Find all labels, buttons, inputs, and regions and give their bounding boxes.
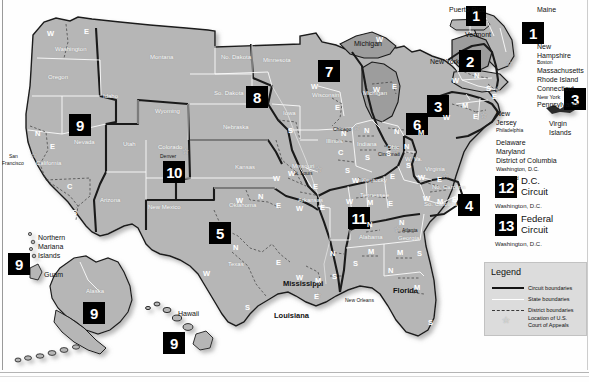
district-letter-oklahoma-w: W: [236, 196, 243, 205]
circuit-card-dc[interactable]: 12 D.C. Circuit: [495, 176, 548, 198]
callout-label-new-hampshire-l2: Hampshire: [537, 52, 571, 59]
circuit-badge-8-dakotas[interactable]: 8: [246, 86, 268, 108]
district-letter-new-york-w: W: [452, 76, 459, 85]
city-label-san-francisco-l1: San: [9, 153, 18, 159]
circuit-badge-1-new-england[interactable]: 1: [522, 22, 544, 44]
legend-row-court-location: ☆ Location of U.S. Court of Appeals: [491, 315, 569, 331]
callout-label-new-york: New York: [537, 94, 560, 100]
district-letter-louisiana-w: W: [296, 273, 303, 282]
district-boundary-key-icon: [491, 305, 525, 315]
district-letter-ohio-n: N: [394, 127, 399, 136]
callout-label-new-york-west: New York: [430, 58, 460, 65]
legend-label-court-location: Location of U.S. Court of Appeals: [528, 315, 569, 328]
district-letter-indiana-s: S: [365, 153, 370, 162]
district-letter-texas-s: S: [245, 303, 250, 312]
legend-label-state: State boundaries: [528, 296, 570, 303]
court-location-star-cincinnati: ☆: [392, 148, 399, 156]
district-letter-california-c: C: [67, 182, 72, 191]
district-letter-louisiana-m: M: [315, 276, 321, 285]
district-letter-florida-n: N: [388, 266, 393, 275]
state-label-washington: Washington: [55, 46, 86, 52]
state-label-alabama: Alabama: [359, 234, 383, 240]
callout-label-pennsylvania: Pennsylvania: [537, 101, 579, 108]
callout-label-northern-mariana-l2: Mariana: [38, 243, 63, 250]
callout-label-new-hampshire-l1: New: [537, 43, 551, 50]
circuit-card-federal-title-l2: Circuit: [521, 225, 553, 236]
legend-label-district: District boundaries: [528, 307, 574, 314]
callout-label-delaware: Delaware: [496, 139, 526, 146]
circuit-badge-12-dc[interactable]: 12: [495, 176, 517, 198]
district-letter-illinois-s: S: [345, 166, 350, 175]
circuit-badge-4-virginia[interactable]: 4: [458, 194, 480, 216]
district-letter-virginia-w: W: [418, 173, 425, 182]
circuit-badge-2-new-york[interactable]: 2: [459, 50, 481, 72]
state-label-montana: Montana: [150, 54, 173, 60]
circuit-badge-10-colorado[interactable]: 10: [163, 161, 185, 183]
legend-row-district: District boundaries: [491, 305, 574, 315]
legend-label-circuit: Circuit boundaries: [528, 285, 572, 292]
state-label-north-dakota: No. Dakota: [221, 54, 251, 60]
circuit-badge-5-texas[interactable]: 5: [209, 222, 231, 244]
district-letter-kansas-w: W: [273, 174, 280, 183]
district-letter-illinois-c: C: [338, 148, 343, 157]
state-label-kentucky: Kentucky: [362, 177, 387, 183]
state-label-alaska: Alaska: [86, 288, 104, 294]
state-label-iowa: Iowa: [283, 110, 296, 116]
district-letter-texas-w: W: [203, 269, 210, 278]
circuit-badge-9-alaska[interactable]: 9: [83, 302, 105, 324]
state-label-california: California: [36, 160, 61, 166]
circuit-card-federal[interactable]: 13 Federal Circuit: [495, 214, 553, 236]
district-letter-new-york-n: N: [474, 71, 479, 80]
district-letter-tennessee-w: W: [346, 197, 353, 206]
district-letter-mississippi-s: S: [332, 272, 337, 281]
state-label-colorado: Colorado: [158, 144, 182, 150]
legend-row-circuit: Circuit boundaries: [491, 283, 572, 293]
district-letter-ohio-s: S: [386, 149, 391, 158]
district-letter-texas-n: N: [233, 243, 238, 252]
district-letter-missouri-e: E: [313, 182, 318, 191]
district-letter-washington-e: E: [84, 27, 89, 36]
state-label-wisconsin: Wisconsin: [312, 92, 339, 98]
district-letter-arkansas-e: E: [320, 203, 325, 212]
district-letter-california-n: N: [35, 129, 40, 138]
legend-title: Legend: [491, 267, 521, 277]
district-letter-georgia-m: M: [397, 248, 403, 257]
district-letter-georgia-n: N: [399, 218, 404, 227]
district-letter-missouri-w: W: [288, 169, 295, 178]
circuit-card-dc-city: Washington, D.C.: [495, 203, 542, 209]
callout-label-maine: Maine: [537, 6, 556, 13]
circuit-badge-13-federal[interactable]: 13: [495, 214, 517, 236]
callout-label-hawaii: Hawaii: [178, 310, 199, 317]
circuit-badge-7-illinois[interactable]: 7: [318, 60, 340, 82]
state-label-texas: Texas: [228, 261, 244, 267]
callout-label-washington-dc: Washington, D.C.: [496, 166, 539, 172]
legend-panel: Legend Circuit boundaries State boundari…: [484, 262, 587, 336]
callout-label-district-of-columbia: District of Columbia: [496, 157, 557, 164]
callout-label-virgin-islands-l2: Islands: [549, 129, 571, 136]
circuit-badge-9-hawaii[interactable]: 9: [163, 332, 185, 354]
district-letter-pennsylvania-m: M: [462, 101, 468, 110]
district-letter-indiana-n: N: [364, 126, 369, 135]
callout-label-louisiana: Louisiana: [274, 311, 309, 320]
circuit-badge-9-west[interactable]: 9: [69, 114, 91, 136]
district-letter-north-carolina-w: W: [423, 194, 430, 203]
callout-label-maryland: Maryland: [496, 148, 525, 155]
legend-label-court-location-l1: Location of U.S.: [528, 315, 569, 322]
district-letter-new-york-e: E: [492, 92, 497, 101]
court-location-star-chicago: ☆: [353, 124, 360, 132]
district-letter-alabama-s: S: [353, 259, 358, 268]
court-location-star-atlanta: ☆: [394, 226, 401, 234]
court-location-star-philadelphia: ☆: [480, 112, 487, 120]
city-label-san-francisco-l2: Francisco: [2, 160, 24, 166]
circuit-badge-6-ohio[interactable]: 6: [406, 113, 428, 135]
district-letter-north-carolina-e: E: [452, 195, 457, 204]
state-label-missouri: Missouri: [292, 163, 314, 169]
callout-label-new-jersey-l2: Jersey: [496, 119, 517, 126]
state-label-indiana: Indiana: [357, 141, 377, 147]
state-boundary-key-icon: [491, 294, 525, 304]
district-letter-west-virginia-s: S: [406, 161, 411, 170]
city-label-st-louis: St. Louis: [293, 170, 312, 176]
circuit-badge-9-mariana-guam[interactable]: 9: [8, 253, 30, 275]
circuit-card-dc-title-l1: D.C.: [521, 176, 548, 187]
legend-row-state: State boundaries: [491, 294, 570, 304]
